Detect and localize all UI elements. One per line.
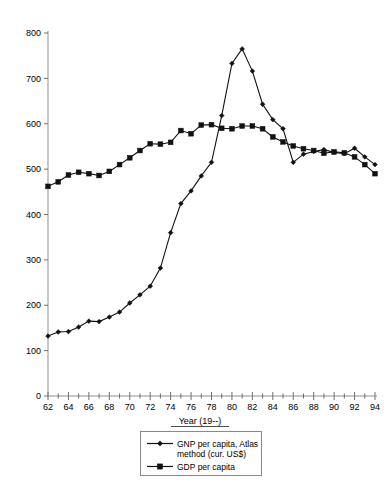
- data-point-square: [127, 155, 132, 160]
- data-point-square: [230, 126, 235, 131]
- data-point-square: [250, 124, 255, 129]
- legend-label-line2: method (cur. US$): [177, 449, 246, 459]
- x-tick-label: 64: [63, 402, 73, 412]
- data-point-square: [158, 142, 163, 147]
- x-tick-label: 90: [329, 402, 339, 412]
- data-point-square: [117, 162, 122, 167]
- y-tick-label: 200: [26, 300, 41, 310]
- chart-figure: 0100200300400500600700800 62646668707274…: [0, 0, 387, 493]
- data-point-square: [178, 128, 183, 133]
- data-point-square: [332, 149, 337, 154]
- data-point-square: [157, 464, 162, 469]
- data-point-square: [342, 150, 347, 155]
- x-tick-label: 88: [309, 402, 319, 412]
- y-tick-label: 0: [36, 391, 41, 401]
- data-point-square: [46, 184, 51, 189]
- data-point-square: [362, 162, 367, 167]
- data-point-square: [219, 126, 224, 131]
- x-tick-label: 76: [186, 402, 196, 412]
- data-point-square: [270, 135, 275, 140]
- x-tick-label: 74: [166, 402, 176, 412]
- x-tick-label: 70: [125, 402, 135, 412]
- data-point-square: [209, 122, 214, 127]
- data-point-square: [281, 140, 286, 145]
- data-point-square: [322, 151, 327, 156]
- y-tick-label: 400: [26, 210, 41, 220]
- data-point-square: [240, 124, 245, 129]
- x-axis-title: Year (19--): [179, 416, 222, 426]
- y-tick-label: 300: [26, 255, 41, 265]
- x-tick-label: 94: [370, 402, 380, 412]
- x-tick-label: 66: [84, 402, 94, 412]
- data-point-square: [107, 169, 112, 174]
- x-tick-label: 78: [206, 402, 216, 412]
- x-tick-label: 92: [350, 402, 360, 412]
- x-tick-label: 80: [227, 402, 237, 412]
- y-tick-label: 600: [26, 119, 41, 129]
- data-point-square: [138, 148, 143, 153]
- y-tick-label: 800: [26, 28, 41, 38]
- data-point-square: [301, 146, 306, 151]
- data-point-square: [311, 148, 316, 153]
- data-point-square: [199, 123, 204, 128]
- legend-label: GNP per capita, Atlas: [177, 439, 258, 449]
- data-point-square: [291, 144, 296, 149]
- y-tick-label: 100: [26, 346, 41, 356]
- data-point-square: [76, 170, 81, 175]
- data-point-square: [66, 173, 71, 178]
- x-tick-label: 82: [247, 402, 257, 412]
- data-point-square: [352, 154, 357, 159]
- line-chart: 0100200300400500600700800 62646668707274…: [0, 0, 387, 493]
- y-tick-label: 700: [26, 74, 41, 84]
- data-point-square: [148, 141, 153, 146]
- x-tick-label: 86: [288, 402, 298, 412]
- data-point-square: [56, 179, 61, 184]
- data-point-square: [168, 140, 173, 145]
- x-tick-label: 72: [145, 402, 155, 412]
- y-tick-label: 500: [26, 164, 41, 174]
- x-tick-label: 68: [104, 402, 114, 412]
- data-point-square: [86, 171, 91, 176]
- data-point-square: [97, 173, 102, 178]
- chart-legend: GNP per capita, Atlasmethod (cur. US$)GD…: [141, 432, 262, 476]
- legend-label: GDP per capita: [177, 462, 235, 472]
- data-point-square: [189, 131, 194, 136]
- data-point-square: [373, 171, 378, 176]
- x-tick-label: 62: [43, 402, 53, 412]
- x-tick-label: 84: [268, 402, 278, 412]
- data-point-square: [260, 126, 265, 131]
